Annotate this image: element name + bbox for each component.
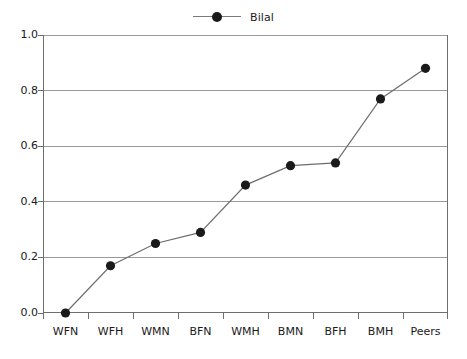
data-point[interactable] [376,94,385,103]
x-tick-mark [268,313,269,319]
legend-item-bilal[interactable]: Bilal [193,11,274,24]
data-point[interactable] [421,64,430,73]
series-bilal [43,35,448,313]
x-tick-mark [133,313,134,319]
data-point[interactable] [196,228,205,237]
x-tick-mark [358,313,359,319]
x-tick-mark [313,313,314,319]
y-axis-ticks [0,35,43,313]
x-tick-label: WFN [53,326,78,338]
x-tick-mark [88,313,89,319]
x-tick-mark [223,313,224,319]
data-point[interactable] [331,158,340,167]
data-point[interactable] [151,239,160,248]
data-point[interactable] [241,181,250,190]
x-tick-mark [447,313,448,319]
x-tick-mark [403,313,404,319]
legend-label: Bilal [250,11,274,24]
x-tick-label: WFH [98,326,123,338]
plot-area [43,35,448,313]
chart-legend: Bilal [0,6,467,28]
x-tick-label: WMH [231,326,260,338]
x-tick-label: BMH [368,326,393,338]
data-point[interactable] [286,161,295,170]
x-tick-label: BFN [189,326,211,338]
x-tick-label: WMN [141,326,170,338]
x-tick-label: BFH [324,326,346,338]
x-tick-mark [43,313,44,319]
x-tick-label: Peers [410,326,440,338]
series-line [66,68,426,313]
line-chart: Bilal 0.00.20.40.60.81.0 WFNWFHWMNBFNWMH… [0,0,467,359]
x-axis: WFNWFHWMNBFNWMHBMNBFHBMHPeers [43,313,448,353]
data-point[interactable] [106,261,115,270]
x-tick-mark [178,313,179,319]
legend-line-marker-icon [193,11,241,23]
x-tick-label: BMN [278,326,303,338]
